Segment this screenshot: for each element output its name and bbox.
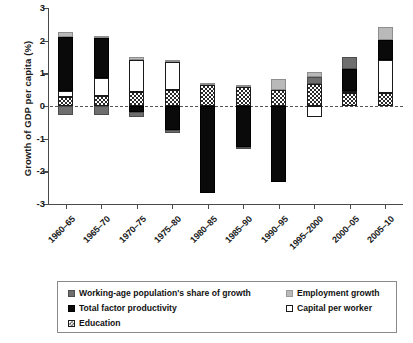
y-tick-label: 2 bbox=[21, 35, 45, 46]
y-tick-label: 3 bbox=[21, 2, 45, 13]
y-tick-label: 0 bbox=[21, 100, 45, 111]
x-tick-mark bbox=[101, 204, 102, 209]
legend-label-capital-per-worker: Capital per worker bbox=[297, 303, 372, 313]
bar-segment-capital-per-worker bbox=[307, 106, 322, 117]
bar-segment-employment-growth bbox=[165, 60, 180, 62]
bar-segment-education bbox=[200, 85, 215, 106]
x-tick-label: 2005–10 bbox=[365, 214, 396, 245]
x-tick-mark bbox=[172, 204, 173, 209]
bar-segment-education bbox=[271, 90, 286, 106]
legend-item-capital-per-worker: Capital per worker bbox=[286, 303, 372, 313]
bar-segment-employment-growth bbox=[58, 32, 73, 37]
chart-legend: Working-age population's share of growth… bbox=[57, 281, 397, 333]
bar-segment-employment-growth bbox=[271, 79, 286, 91]
x-tick-mark bbox=[243, 204, 244, 209]
x-tick-label: 1970–75 bbox=[117, 214, 148, 245]
x-tick-mark bbox=[314, 204, 315, 209]
bar-segment-total-factor-productivity bbox=[236, 106, 251, 147]
bar-group[interactable] bbox=[129, 8, 144, 204]
legend-label-education: Education bbox=[79, 318, 121, 328]
bar-segment-working-age-population-share bbox=[236, 147, 251, 149]
bar-segment-working-age-population-share bbox=[94, 106, 109, 115]
legend-item-employment-growth: Employment growth bbox=[286, 288, 380, 298]
bar-segment-education bbox=[307, 84, 322, 106]
y-tick-label: 1 bbox=[21, 67, 45, 78]
bar-segment-employment-growth bbox=[236, 85, 251, 87]
bar-segment-capital-per-worker bbox=[129, 60, 144, 92]
legend-item-total-factor-productivity: Total factor productivity bbox=[68, 303, 177, 313]
x-tick-label: 1990–95 bbox=[259, 214, 290, 245]
bar-segment-education bbox=[94, 96, 109, 106]
legend-swatch-tfp-icon bbox=[68, 305, 75, 312]
legend-label-total-factor-productivity: Total factor productivity bbox=[79, 303, 177, 313]
bar-segment-employment-growth bbox=[200, 83, 215, 85]
bar-segment-capital-per-worker bbox=[94, 78, 109, 95]
x-tick-mark bbox=[279, 204, 280, 209]
bar-segment-working-age-population-share bbox=[342, 57, 357, 69]
plot-area: 3210-1-2-3 1960–651965–701970–751975–801… bbox=[48, 8, 403, 204]
bar-segment-working-age-population-share bbox=[165, 130, 180, 133]
y-tick-label: -1 bbox=[21, 133, 45, 144]
legend-item-working-age-population: Working-age population's share of growth bbox=[68, 288, 251, 298]
x-tick-label: 1965–70 bbox=[81, 214, 112, 245]
bar-group[interactable] bbox=[58, 8, 73, 204]
legend-label-employment-growth: Employment growth bbox=[297, 288, 380, 298]
bar-segment-education bbox=[236, 87, 251, 106]
legend-item-education: Education bbox=[68, 318, 121, 328]
bar-group[interactable] bbox=[307, 8, 322, 204]
bar-segment-total-factor-productivity bbox=[58, 37, 73, 91]
legend-swatch-capital-icon bbox=[286, 305, 293, 312]
bar-segment-capital-per-worker bbox=[378, 60, 393, 93]
x-tick-label: 1980–85 bbox=[188, 214, 219, 245]
bar-segment-employment-growth bbox=[307, 72, 322, 76]
bar-segment-working-age-population-share bbox=[129, 112, 144, 117]
bar-segment-education bbox=[378, 93, 393, 106]
x-tick-mark bbox=[66, 204, 67, 209]
bar-segment-education bbox=[165, 90, 180, 106]
bar-segment-capital-per-worker bbox=[58, 91, 73, 97]
x-tick-mark bbox=[350, 204, 351, 209]
bar-group[interactable] bbox=[236, 8, 251, 204]
legend-label-working-age-population: Working-age population's share of growth bbox=[79, 288, 251, 298]
bar-segment-total-factor-productivity bbox=[200, 106, 215, 193]
bar-group[interactable] bbox=[342, 8, 357, 204]
bar-segment-employment-growth bbox=[129, 57, 144, 60]
x-tick-mark bbox=[137, 204, 138, 209]
bar-segment-capital-per-worker bbox=[165, 62, 180, 90]
bar-segment-working-age-population-share bbox=[58, 106, 73, 115]
bar-group[interactable] bbox=[200, 8, 215, 204]
bar-segment-employment-growth bbox=[94, 36, 109, 38]
bar-segment-total-factor-productivity bbox=[165, 106, 180, 130]
bar-segment-total-factor-productivity bbox=[94, 38, 109, 78]
bar-segment-total-factor-productivity bbox=[378, 40, 393, 60]
x-tick-label: 1960–65 bbox=[46, 214, 77, 245]
y-tick-label: -2 bbox=[21, 165, 45, 176]
bar-segment-total-factor-productivity bbox=[342, 69, 357, 91]
x-tick-label: 1995–2000 bbox=[288, 214, 326, 252]
bar-segment-education bbox=[129, 92, 144, 106]
bar-group[interactable] bbox=[378, 8, 393, 204]
bar-segment-working-age-population-share bbox=[307, 77, 322, 85]
x-tick-label: 2000–05 bbox=[330, 214, 361, 245]
chart-root: Growth of GDP per capita (%) 3210-1-2-3 … bbox=[0, 0, 413, 343]
y-tick-label: -3 bbox=[21, 198, 45, 209]
x-tick-label: 1985–90 bbox=[223, 214, 254, 245]
x-tick-mark bbox=[208, 204, 209, 209]
legend-swatch-education-icon bbox=[68, 320, 75, 327]
legend-swatch-employment-icon bbox=[286, 290, 293, 297]
bar-segment-employment-growth bbox=[378, 27, 393, 39]
bar-group[interactable] bbox=[271, 8, 286, 204]
bar-segment-education bbox=[342, 93, 357, 106]
bar-group[interactable] bbox=[94, 8, 109, 204]
bar-group[interactable] bbox=[165, 8, 180, 204]
bar-segment-total-factor-productivity bbox=[271, 106, 286, 182]
x-tick-label: 1975–80 bbox=[152, 214, 183, 245]
legend-swatch-working-age-icon bbox=[68, 290, 75, 297]
bar-series-container bbox=[48, 8, 403, 204]
bar-segment-capital-per-worker bbox=[342, 91, 357, 93]
bar-segment-education bbox=[58, 97, 73, 106]
x-tick-mark bbox=[385, 204, 386, 209]
